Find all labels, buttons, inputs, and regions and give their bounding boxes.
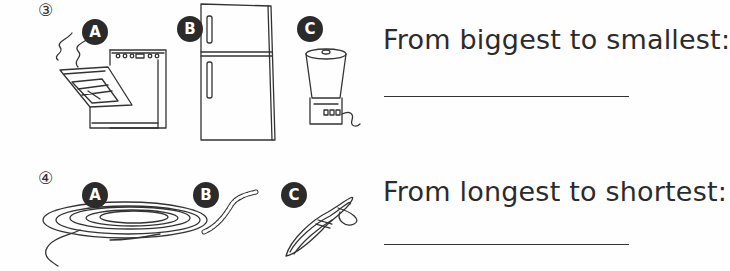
badge-label: A: [89, 23, 101, 41]
item-badge-b: B: [193, 182, 219, 208]
item-badge-a: A: [82, 19, 108, 45]
item-badge-b: B: [177, 16, 203, 42]
badge-label: B: [200, 186, 211, 204]
question-number: ④: [38, 168, 53, 188]
oven-icon: [50, 25, 170, 135]
answer-line[interactable]: [384, 96, 629, 97]
question-prompt: From biggest to smallest:: [383, 24, 730, 55]
badge-label: C: [304, 20, 315, 38]
item-badge-a: A: [82, 182, 108, 208]
item-badge-c: C: [297, 16, 323, 42]
badge-label: B: [184, 20, 195, 38]
blender-icon: [304, 48, 364, 130]
badge-label: C: [288, 186, 299, 204]
item-badge-c: C: [281, 182, 307, 208]
coiled-rope-icon: [40, 190, 190, 270]
answer-line[interactable]: [384, 244, 629, 245]
question-number: ③: [38, 0, 53, 20]
badge-label: A: [89, 186, 101, 204]
question-prompt: From longest to shortest:: [383, 176, 727, 207]
refrigerator-icon: [198, 2, 278, 142]
